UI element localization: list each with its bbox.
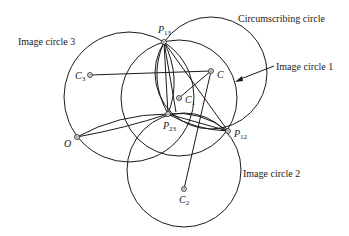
label-c: C [217,69,224,80]
circle-geometry-diagram: Circumscribing circle Image circle 1 Ima… [0,0,349,236]
arc-o-p23-bottom [77,114,168,137]
arc-o-p23-top [77,114,168,137]
label-o: O [64,138,71,149]
arrow-head-icon [235,76,243,82]
label-c2: C2 [179,194,190,207]
label-circumscribing-circle: Circumscribing circle [238,13,325,24]
image-circle-3 [64,32,194,162]
label-p13: P13 [157,24,172,37]
label-p23: P23 [162,120,177,133]
label-image-circle-3: Image circle 3 [18,36,75,47]
label-image-circle-2: Image circle 2 [243,168,300,179]
label-image-circle-1: Image circle 1 [276,61,333,72]
line-c3-c [90,71,211,75]
label-p12: P12 [233,128,248,141]
label-c3: C3 [75,70,86,83]
diagram-canvas: Circumscribing circle Image circle 1 Ima… [0,0,349,236]
leader-image-circle-1 [238,66,274,80]
